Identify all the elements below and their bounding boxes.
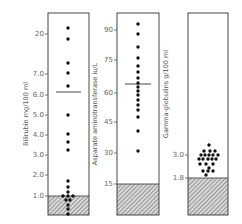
data-point — [66, 140, 69, 143]
y-axis-title: Asparate aminotransferase iu/L — [91, 62, 99, 165]
data-point — [136, 76, 139, 79]
data-point — [201, 157, 204, 160]
y-tick-label: 45 — [104, 118, 113, 126]
data-point — [136, 108, 139, 111]
data-point — [202, 149, 205, 152]
normal-range-hatch — [117, 184, 159, 215]
y-tick-label: 3.0 — [33, 151, 44, 159]
data-point — [216, 153, 219, 156]
data-point — [197, 157, 200, 160]
data-point — [66, 37, 69, 40]
data-point — [136, 22, 139, 25]
data-point — [214, 157, 217, 160]
y-tick-label: 6.0 — [33, 91, 44, 99]
data-point — [136, 70, 139, 73]
y-tick-label: 4.0 — [33, 131, 44, 139]
y-tick-label: 15 — [104, 180, 113, 188]
panel-1: 207.06.05.04.03.02.01.0Bilirubin mg/100 … — [22, 13, 89, 216]
panel-2: 907560453015Asparate aminotransferase iu… — [91, 13, 159, 215]
data-point — [136, 56, 139, 59]
data-point — [71, 194, 74, 197]
data-point — [61, 194, 64, 197]
data-point — [213, 149, 216, 152]
data-point — [136, 149, 139, 152]
data-point — [204, 173, 207, 176]
data-point — [136, 129, 139, 132]
data-point — [66, 132, 69, 135]
data-point — [204, 162, 207, 165]
data-point — [136, 89, 139, 92]
data-point — [198, 162, 201, 165]
y-tick-label: 75 — [104, 56, 113, 64]
data-point — [66, 207, 69, 210]
data-point — [136, 64, 139, 67]
data-point — [66, 179, 69, 182]
y-tick-label: 2.0 — [33, 171, 44, 179]
data-point — [201, 169, 204, 172]
data-point — [206, 169, 209, 172]
data-point — [136, 85, 139, 88]
panel-3: 3.01.8Gamma-globulins g/100 ml — [162, 13, 228, 215]
y-tick-label: 1.0 — [33, 192, 44, 200]
data-point — [136, 32, 139, 35]
data-point — [66, 212, 69, 215]
data-point — [64, 198, 67, 201]
data-point — [66, 203, 69, 206]
chart-canvas: 207.06.05.04.03.02.01.0Bilirubin mg/100 … — [0, 0, 242, 224]
y-tick-label: 30 — [104, 149, 113, 157]
data-point — [211, 162, 214, 165]
data-point — [66, 190, 69, 193]
y-tick-label: 1.8 — [173, 174, 184, 182]
data-point — [66, 61, 69, 64]
data-point — [66, 113, 69, 116]
data-point — [136, 93, 139, 96]
y-tick-label: 90 — [104, 26, 113, 34]
data-point — [66, 148, 69, 151]
y-tick-label: 20 — [35, 30, 44, 38]
data-point — [203, 153, 206, 156]
data-point — [66, 84, 69, 87]
data-point — [211, 153, 214, 156]
data-point — [207, 166, 210, 169]
data-point — [66, 185, 69, 188]
data-point — [208, 149, 211, 152]
y-tick-label: 60 — [104, 89, 113, 97]
y-axis-title: Gamma-globulins g/100 ml — [162, 50, 170, 138]
data-point — [136, 103, 139, 106]
data-point — [207, 143, 210, 146]
data-point — [66, 71, 69, 74]
data-point — [136, 98, 139, 101]
y-tick-label: 5.0 — [33, 111, 44, 119]
data-point — [136, 45, 139, 48]
data-point — [210, 157, 213, 160]
normal-range-hatch — [188, 178, 228, 215]
y-axis-title: Bilirubin mg/100 ml — [22, 82, 30, 146]
data-point — [207, 153, 210, 156]
data-point — [66, 26, 69, 29]
y-tick-label: 3.0 — [173, 151, 184, 159]
data-point — [206, 157, 209, 160]
data-point — [136, 115, 139, 118]
y-tick-label: 7.0 — [33, 70, 44, 78]
data-point — [136, 81, 139, 84]
data-point — [199, 153, 202, 156]
data-point — [68, 198, 71, 201]
data-point — [211, 169, 214, 172]
data-point — [66, 194, 69, 197]
